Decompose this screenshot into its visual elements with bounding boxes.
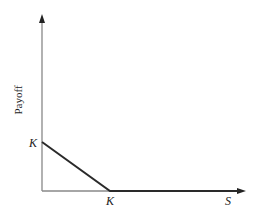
payoff-diagram: K K S Payoff (0, 0, 257, 213)
diagram-svg: K K S Payoff (0, 0, 257, 213)
x-axis-label: S (225, 194, 231, 208)
x-tick-label: K (105, 194, 115, 208)
payoff-line (42, 142, 240, 191)
y-axis-label: Payoff (12, 85, 24, 114)
y-tick-label: K (28, 136, 38, 150)
y-axis-arrow-icon (39, 14, 45, 23)
